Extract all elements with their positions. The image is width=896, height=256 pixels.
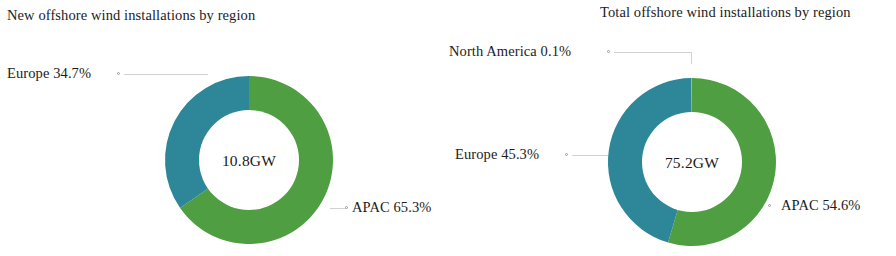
callout-europe: Europe 45.3% <box>455 146 539 163</box>
offshore-wind-donut-figure: New offshore wind installations by regio… <box>0 0 896 256</box>
chart-title-new-installations: New offshore wind installations by regio… <box>7 7 255 24</box>
leader-dot-europe <box>117 72 120 75</box>
leader-line-north-america-drop <box>691 52 692 64</box>
chart-panel-total-installations: Total offshore wind installations by reg… <box>448 0 896 256</box>
leader-line-north-america <box>614 52 692 53</box>
chart-panel-new-installations: New offshore wind installations by regio… <box>0 0 448 256</box>
leader-dot-europe <box>565 153 568 156</box>
donut-center-label-new: 10.8GW <box>164 152 334 170</box>
callout-apac: APAC 54.6% <box>781 197 860 214</box>
callout-apac: APAC 65.3% <box>352 199 431 216</box>
leader-dot-apac <box>345 206 348 209</box>
callout-north-america: North America 0.1% <box>449 43 571 60</box>
leader-line-europe <box>124 74 208 75</box>
chart-title-total-installations: Total offshore wind installations by reg… <box>600 4 851 21</box>
donut-chart-total-installations: 75.2GW <box>607 78 777 248</box>
callout-europe: Europe 34.7% <box>7 65 91 82</box>
donut-center-label-total: 75.2GW <box>607 154 777 172</box>
leader-dot-north-america <box>607 50 610 53</box>
donut-chart-new-installations: 10.8GW <box>164 76 334 246</box>
